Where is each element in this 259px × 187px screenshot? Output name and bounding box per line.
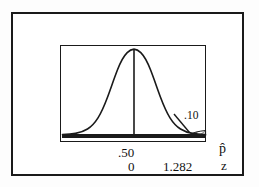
- plot-frame: [60, 45, 206, 142]
- figure-root: .10 .50 0 1.282 p̂ z: [0, 0, 259, 187]
- normal-curve-plot: [61, 46, 207, 143]
